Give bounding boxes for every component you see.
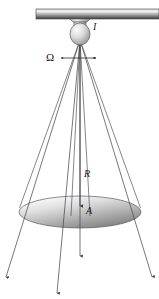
ceiling-bar (36, 9, 159, 19)
cone-edge-right (80, 40, 141, 208)
label-intensity: I (92, 21, 97, 32)
light-bulb (70, 23, 90, 45)
ray-outer-right (80, 40, 152, 277)
fixture-canopy (70, 19, 90, 22)
lamp-fixture (70, 19, 90, 45)
cone-inner-right (80, 40, 90, 216)
figure-container: I Ω R A (0, 0, 159, 299)
light-ray-group (6, 40, 152, 293)
cone-edge-left (20, 40, 81, 208)
label-area: A (85, 205, 93, 216)
light-source-diagram: I Ω R A (0, 0, 159, 299)
ceiling-mount (36, 9, 159, 19)
label-solid-angle: Ω (46, 51, 54, 63)
label-distance: R (83, 168, 90, 179)
